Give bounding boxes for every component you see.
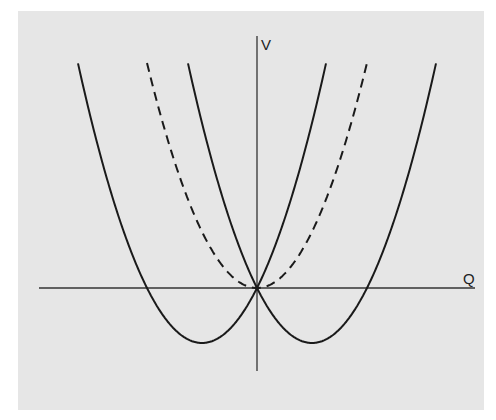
v-axis-label: V bbox=[261, 36, 271, 53]
q-axis-label: Q bbox=[463, 270, 475, 287]
potential-energy-diagram: V Q bbox=[0, 0, 496, 420]
left-solid-parabola bbox=[78, 63, 326, 343]
right-solid-parabola bbox=[188, 63, 436, 343]
